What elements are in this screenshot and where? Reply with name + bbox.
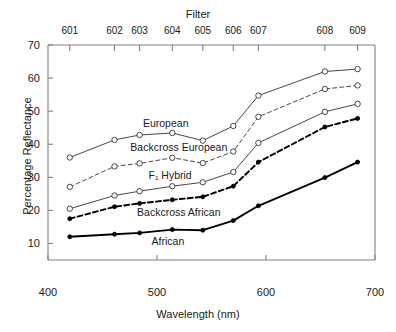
- data-point: [256, 114, 261, 119]
- data-point: [322, 86, 327, 91]
- data-point: [137, 161, 142, 166]
- data-point: [68, 217, 72, 221]
- plot-canvas: [0, 0, 396, 332]
- data-point: [256, 204, 260, 208]
- data-point: [137, 189, 142, 194]
- series-2: [67, 83, 360, 190]
- data-point: [67, 206, 72, 211]
- data-point: [170, 198, 174, 202]
- data-point: [356, 160, 360, 164]
- data-point: [200, 138, 205, 143]
- data-point: [231, 123, 236, 128]
- data-point: [67, 155, 72, 160]
- data-point: [67, 184, 72, 189]
- data-point: [200, 160, 205, 165]
- data-point: [231, 184, 235, 188]
- data-point: [355, 66, 360, 71]
- data-point: [201, 195, 205, 199]
- data-point: [256, 140, 261, 145]
- data-point: [355, 101, 360, 106]
- series-line: [70, 85, 358, 186]
- series-line: [70, 162, 358, 237]
- series-5: [68, 160, 360, 239]
- data-point: [112, 193, 117, 198]
- series-3: [67, 101, 360, 211]
- data-point: [231, 219, 235, 223]
- data-point: [138, 201, 142, 205]
- data-point: [170, 228, 174, 232]
- data-point: [355, 83, 360, 88]
- series-1: [67, 66, 360, 160]
- data-point: [256, 93, 261, 98]
- data-point: [113, 205, 117, 209]
- data-point: [356, 116, 360, 120]
- data-point: [323, 176, 327, 180]
- data-point: [200, 180, 205, 185]
- data-point: [113, 232, 117, 236]
- data-point: [170, 155, 175, 160]
- data-point: [322, 69, 327, 74]
- data-point: [231, 149, 236, 154]
- data-point: [138, 231, 142, 235]
- data-point: [231, 169, 236, 174]
- data-point: [323, 125, 327, 129]
- data-point: [112, 164, 117, 169]
- data-point: [137, 132, 142, 137]
- series-4: [68, 116, 360, 220]
- series-line: [70, 69, 358, 157]
- data-point: [322, 109, 327, 114]
- data-point: [170, 184, 175, 189]
- data-point: [68, 235, 72, 239]
- chart-figure: Filter Percentage Reflectance Wavelength…: [0, 0, 396, 332]
- data-point: [256, 160, 260, 164]
- data-point: [201, 228, 205, 232]
- data-point: [170, 130, 175, 135]
- data-point: [112, 137, 117, 142]
